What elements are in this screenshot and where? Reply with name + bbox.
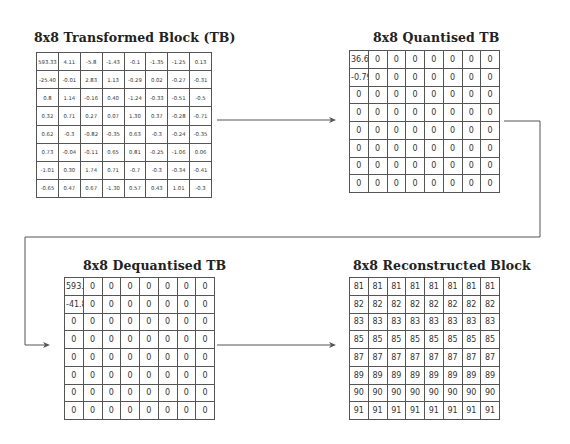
- matrix-cell: 85: [443, 331, 462, 349]
- matrix-cell: 0: [65, 313, 84, 331]
- matrix-cell: -0.27: [168, 71, 190, 89]
- matrix-cell: 0: [140, 349, 159, 367]
- matrix-cell: 1.01: [168, 179, 190, 197]
- matrix-cell: -0.29: [124, 71, 146, 89]
- matrix-cell: 0: [387, 104, 406, 122]
- matrix-row: 00000000: [350, 157, 500, 175]
- matrix-cell: 0: [462, 86, 481, 104]
- matrix-cell: 0: [140, 295, 159, 313]
- matrix-cell: 0: [425, 51, 444, 69]
- matrix-cell: 0: [462, 122, 481, 140]
- matrix-cell: 0: [83, 402, 102, 420]
- matrix-cell: -0.11: [80, 143, 102, 161]
- matrix-row: 00000000: [350, 122, 500, 140]
- matrix-cell: 89: [443, 366, 462, 384]
- matrix-cell: 87: [481, 349, 500, 367]
- matrix-cell: 0: [140, 331, 159, 349]
- matrix-cell: 81: [462, 278, 481, 296]
- matrix-reconstructed: 8181818181818181828282828282828283838383…: [349, 277, 500, 420]
- matrix-cell: 1.13: [102, 71, 124, 89]
- matrix-cell: 0: [368, 139, 387, 157]
- matrix-cell: 0: [462, 157, 481, 175]
- matrix-cell: 0: [121, 278, 140, 296]
- matrix-cell: 0: [196, 295, 215, 313]
- matrix-cell: 89: [368, 366, 387, 384]
- matrix-cell: 91: [368, 402, 387, 420]
- matrix-cell: 0: [140, 313, 159, 331]
- matrix-row: 00000000: [65, 402, 215, 420]
- matrix-cell: 0: [83, 366, 102, 384]
- matrix-row: 00000000: [65, 331, 215, 349]
- matrix-cell: 0: [443, 68, 462, 86]
- matrix-cell: 81: [368, 278, 387, 296]
- matrix-cell: 0: [350, 104, 369, 122]
- matrix-cell: 0: [425, 104, 444, 122]
- matrix-cell: 0: [425, 139, 444, 157]
- matrix-cell: 0: [387, 51, 406, 69]
- matrix-cell: 0: [102, 313, 121, 331]
- matrix-cell: -1.06: [168, 143, 190, 161]
- matrix-cell: 0.71: [58, 107, 80, 125]
- matrix-cell: 1.74: [80, 161, 102, 179]
- matrix-cell: 0: [387, 86, 406, 104]
- matrix-cell: 0: [158, 349, 177, 367]
- matrix-row: 00000000: [65, 349, 215, 367]
- matrix-cell: 0: [177, 402, 196, 420]
- matrix-cell: 2.83: [80, 71, 102, 89]
- matrix-cell: 0: [481, 68, 500, 86]
- matrix-cell: 90: [406, 384, 425, 402]
- matrix-cell: -25.40: [37, 71, 59, 89]
- matrix-cell: 4.11: [58, 53, 80, 71]
- matrix-cell: 0.06: [190, 143, 212, 161]
- matrix-cell: 87: [387, 349, 406, 367]
- matrix-row: 00000000: [350, 86, 500, 104]
- matrix-cell: 0: [387, 139, 406, 157]
- matrix-cell: 0: [102, 384, 121, 402]
- panel-title: 8x8 Transformed Block (TB): [34, 30, 236, 45]
- matrix-cell: 0: [102, 278, 121, 296]
- matrix-row: 0.62-0.3-0.82-0.350.63-0.3-0.24-0.35: [37, 125, 212, 143]
- matrix-cell: 82: [481, 295, 500, 313]
- matrix-cell: 81: [425, 278, 444, 296]
- matrix-row: 0.81.14-0.160.40-1.24-0.33-0.51-0.5: [37, 89, 212, 107]
- matrix-cell: 0: [83, 349, 102, 367]
- matrix-cell: 0: [121, 402, 140, 420]
- matrix-cell: 0: [462, 175, 481, 193]
- matrix-cell: 90: [350, 384, 369, 402]
- matrix-cell: 0: [462, 104, 481, 122]
- matrix-cell: 0: [65, 349, 84, 367]
- matrix-cell: -0.3: [146, 161, 168, 179]
- matrix-cell: -1.01: [37, 161, 59, 179]
- matrix-cell: -0.1: [124, 53, 146, 71]
- matrix-row: 00000000: [350, 175, 500, 193]
- matrix-cell: 0: [177, 349, 196, 367]
- matrix-cell: 0: [121, 366, 140, 384]
- matrix-cell: 0: [83, 384, 102, 402]
- matrix-cell: 0.65: [102, 143, 124, 161]
- matrix-cell: 0: [158, 313, 177, 331]
- matrix-cell: 0: [121, 313, 140, 331]
- matrix-cell: -0.65: [37, 179, 59, 197]
- matrix-transformed: 593.334.11-5.8-1.43-0.1-1.35-1.250.13-25…: [36, 52, 212, 198]
- matrix-cell: 89: [481, 366, 500, 384]
- matrix-row: -1.010.301.740.71-0.7-0.3-0.34-0.41: [37, 161, 212, 179]
- matrix-cell: 90: [462, 384, 481, 402]
- matrix-cell: 0: [481, 157, 500, 175]
- matrix-cell: -0.24: [168, 125, 190, 143]
- matrix-cell: -1.24: [124, 89, 146, 107]
- matrix-cell: -0.31: [190, 71, 212, 89]
- matrix-cell: 0: [481, 104, 500, 122]
- matrix-cell: -0.41: [190, 161, 212, 179]
- matrix-cell: 0: [177, 295, 196, 313]
- matrix-cell: 0: [406, 122, 425, 140]
- matrix-cell: 91: [387, 402, 406, 420]
- matrix-cell: 0: [406, 51, 425, 69]
- matrix-cell: 0: [196, 331, 215, 349]
- matrix-cell: 85: [387, 331, 406, 349]
- matrix-cell: 0: [368, 68, 387, 86]
- matrix-cell: 0: [102, 402, 121, 420]
- matrix-cell: 0: [387, 175, 406, 193]
- matrix-cell: 0: [65, 366, 84, 384]
- matrix-cell: 87: [350, 349, 369, 367]
- matrix-cell: -0.7: [124, 161, 146, 179]
